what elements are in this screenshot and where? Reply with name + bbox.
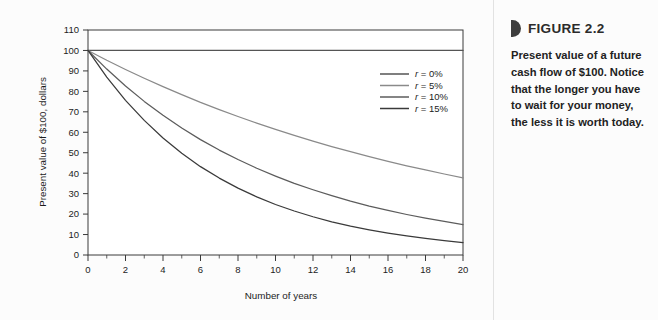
y-tick-label: 50 — [68, 147, 79, 158]
x-tick-label: 6 — [198, 264, 203, 275]
y-axis-title: Present value of $100, dollars — [37, 77, 48, 207]
y-tick-label: 60 — [68, 127, 79, 138]
x-tick-label: 8 — [235, 264, 240, 275]
y-tick-label: 80 — [68, 86, 79, 97]
y-tick-label: 30 — [68, 188, 79, 199]
right-pointing-half-disc-icon — [511, 20, 521, 37]
y-tick-label: 90 — [68, 65, 79, 76]
present-value-line-chart: 02468101214161820 0102030405060708090100… — [0, 0, 493, 320]
plot-frame — [88, 30, 463, 255]
y-tick-label: 110 — [64, 24, 79, 35]
legend-label-0pct: r = 0% — [415, 68, 443, 79]
y-axis: 0102030405060708090100110 — [63, 24, 88, 260]
x-tick-label: 10 — [270, 264, 281, 275]
x-tick-label: 14 — [345, 264, 356, 275]
x-tick-label: 20 — [458, 264, 469, 275]
figure-label: FIGURE 2.2 — [528, 21, 605, 36]
y-tick-label: 100 — [63, 45, 79, 56]
panel-divider — [493, 0, 494, 320]
legend-label-15pct: r = 15% — [415, 103, 449, 114]
x-axis-title: Number of years — [245, 290, 318, 301]
figure-container: 02468101214161820 0102030405060708090100… — [0, 0, 658, 320]
y-tick-label: 20 — [68, 208, 79, 219]
x-tick-label: 12 — [308, 264, 319, 275]
y-tick-label: 10 — [68, 229, 79, 240]
caption-panel: FIGURE 2.2 Present value of a future cas… — [503, 0, 658, 320]
x-axis: 02468101214161820 — [85, 255, 468, 275]
x-tick-label: 16 — [383, 264, 394, 275]
figure-title-row: FIGURE 2.2 — [511, 20, 648, 37]
x-tick-label: 18 — [420, 264, 431, 275]
chart-panel: 02468101214161820 0102030405060708090100… — [0, 0, 493, 320]
y-tick-label: 40 — [68, 168, 79, 179]
y-tick-label: 0 — [74, 249, 79, 260]
caption-body: Present value of a future cash flow of $… — [511, 47, 646, 131]
x-tick-label: 2 — [123, 264, 128, 275]
legend-label-5pct: r = 5% — [415, 80, 443, 91]
x-tick-label: 4 — [160, 264, 165, 275]
y-tick-label: 70 — [68, 106, 79, 117]
x-tick-label: 0 — [85, 264, 90, 275]
legend-label-10pct: r = 10% — [415, 91, 449, 102]
